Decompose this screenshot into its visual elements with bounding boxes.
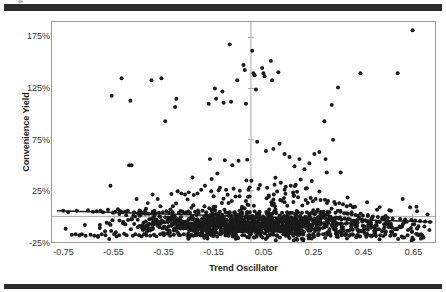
y-axis-title: Convenience Yield — [21, 52, 31, 212]
top-rule — [4, 4, 442, 11]
x-axis-tick-label: 0.45 — [339, 247, 389, 257]
x-axis-tick-label: -0.35 — [139, 247, 189, 257]
bottom-rule — [4, 284, 442, 289]
x-axis-tick-label: 0.25 — [289, 247, 339, 257]
x-axis-title: Trend Oscillator — [51, 263, 436, 273]
x-axis-tick-label: -0.15 — [189, 247, 239, 257]
data-points-layer — [61, 28, 432, 242]
scatter-plot-canvas — [52, 22, 435, 242]
x-axis-tick-label: -0.75 — [39, 247, 89, 257]
y-axis-tick-label: 175% — [4, 31, 50, 41]
x-axis-tick-label: -0.55 — [89, 247, 139, 257]
figure-page: 175% 125% 75% 25% -25% Convenience Yield… — [0, 0, 446, 292]
scan-speck-artifact — [18, 0, 23, 3]
scatter-plot-area — [51, 21, 436, 243]
x-axis-tick-label: 0.05 — [239, 247, 289, 257]
x-axis-tick-label: 0.65 — [389, 247, 439, 257]
